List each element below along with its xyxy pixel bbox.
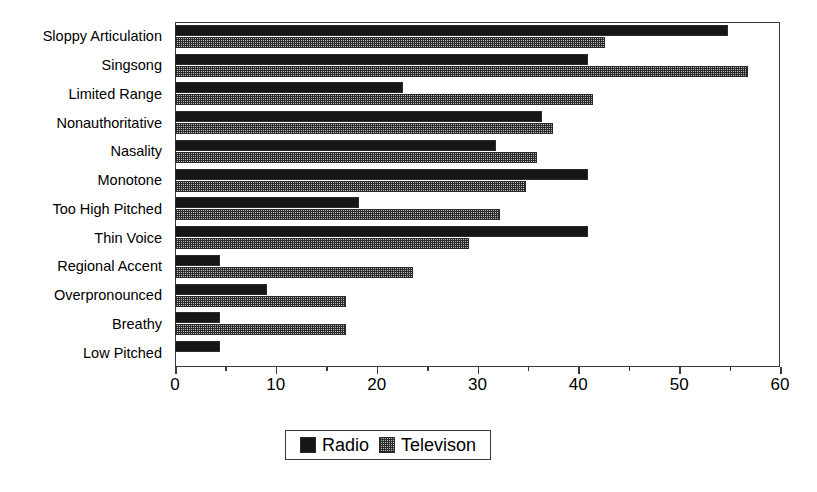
bar-radio bbox=[175, 226, 588, 237]
x-tick-minor bbox=[528, 367, 530, 371]
bar-radio bbox=[175, 25, 728, 36]
x-tick-minor bbox=[427, 367, 429, 371]
legend-entry: Televison bbox=[379, 436, 476, 454]
bar-radio bbox=[175, 284, 267, 295]
bar-group bbox=[175, 25, 780, 48]
x-tick-minor bbox=[629, 367, 631, 371]
category-label: Sloppy Articulation bbox=[43, 29, 162, 44]
x-tick-label: 50 bbox=[670, 376, 689, 393]
bar-televison bbox=[175, 181, 526, 192]
legend-label: Radio bbox=[322, 436, 369, 454]
category-label: Regional Accent bbox=[57, 259, 162, 274]
x-tick-major bbox=[175, 367, 177, 374]
category-label: Monotone bbox=[98, 173, 163, 188]
bar-group bbox=[175, 197, 780, 220]
x-tick-minor bbox=[326, 367, 328, 371]
x-tick-label: 40 bbox=[569, 376, 588, 393]
category-label: Thin Voice bbox=[94, 231, 162, 246]
bar-televison bbox=[175, 267, 413, 278]
x-tick-major bbox=[578, 367, 580, 374]
bar-radio bbox=[175, 197, 359, 208]
bar-radio bbox=[175, 82, 403, 93]
category-label: Limited Range bbox=[69, 87, 163, 102]
x-tick-minor bbox=[730, 367, 732, 371]
category-label: Too High Pitched bbox=[52, 202, 162, 217]
x-tick-label: 0 bbox=[170, 376, 179, 393]
bar-televison bbox=[175, 94, 593, 105]
category-label: Nonauthoritative bbox=[56, 116, 162, 131]
legend-swatch-radio bbox=[300, 437, 316, 453]
x-tick-label: 20 bbox=[367, 376, 386, 393]
chart-legend: RadioTelevison bbox=[285, 430, 491, 460]
category-label: Singsong bbox=[102, 58, 162, 73]
x-tick-major bbox=[377, 367, 379, 374]
bar-group bbox=[175, 140, 780, 163]
bar-group bbox=[175, 255, 780, 278]
legend-label: Televison bbox=[401, 436, 476, 454]
bar-group bbox=[175, 111, 780, 134]
bar-group bbox=[175, 54, 780, 77]
bar-group bbox=[175, 82, 780, 105]
bar-televison bbox=[175, 209, 500, 220]
bar-televison bbox=[175, 238, 469, 249]
bar-group bbox=[175, 312, 780, 335]
bar-radio bbox=[175, 255, 220, 266]
x-tick-minor bbox=[225, 367, 227, 371]
x-tick-major bbox=[679, 367, 681, 374]
category-label: Nasality bbox=[110, 144, 162, 159]
bar-televison bbox=[175, 152, 537, 163]
bar-group bbox=[175, 226, 780, 249]
category-label: Overpronounced bbox=[54, 288, 162, 303]
x-tick-major bbox=[276, 367, 278, 374]
bar-group bbox=[175, 341, 780, 364]
x-tick-label: 30 bbox=[468, 376, 487, 393]
x-tick-major bbox=[478, 367, 480, 374]
bar-group bbox=[175, 284, 780, 307]
legend-swatch-televison bbox=[379, 437, 395, 453]
category-label: Low Pitched bbox=[83, 346, 162, 361]
x-tick-major bbox=[780, 367, 782, 374]
category-label: Breathy bbox=[112, 317, 162, 332]
bar-radio bbox=[175, 111, 542, 122]
x-tick-label: 60 bbox=[771, 376, 790, 393]
bar-radio bbox=[175, 312, 220, 323]
bar-radio bbox=[175, 169, 588, 180]
bar-group bbox=[175, 169, 780, 192]
horizontal-bar-chart: Sloppy ArticulationSingsongLimited Range… bbox=[0, 0, 817, 492]
legend-entry: Radio bbox=[300, 436, 369, 454]
x-axis: 0102030405060 bbox=[175, 367, 780, 417]
bar-radio bbox=[175, 341, 220, 352]
bar-televison bbox=[175, 37, 605, 48]
category-axis: Sloppy ArticulationSingsongLimited Range… bbox=[0, 22, 170, 367]
bar-televison bbox=[175, 324, 346, 335]
bar-televison bbox=[175, 296, 346, 307]
bar-televison bbox=[175, 66, 748, 77]
bar-televison bbox=[175, 123, 553, 134]
x-tick-label: 10 bbox=[266, 376, 285, 393]
bar-radio bbox=[175, 140, 496, 151]
plot-area bbox=[175, 22, 780, 367]
bar-radio bbox=[175, 54, 588, 65]
